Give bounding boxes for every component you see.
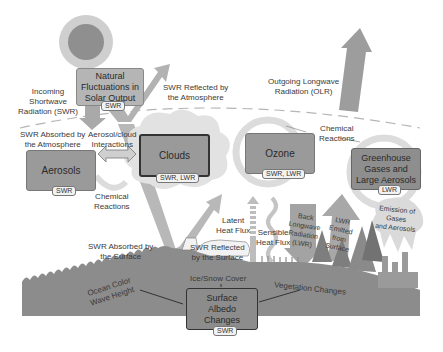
albedo-line3: Changes xyxy=(204,315,240,326)
swr-reflected-atmosphere-label: SWR Reflected by the Atmosphere xyxy=(163,83,228,103)
aerosols-tag: SWR xyxy=(52,186,76,196)
swr-reflected-surface-label: SWR Reflected by the Surface xyxy=(190,243,245,263)
aerosols-box: Aerosols xyxy=(26,150,96,191)
chemical-reactions-left-label: Chemical Reactions xyxy=(94,192,130,212)
albedo-line2: Albedo xyxy=(208,304,236,315)
latent-heat-label: Latent Heat Flux xyxy=(216,216,250,236)
ozone-label: Ozone xyxy=(265,148,294,159)
ozone-box: Ozone xyxy=(245,133,315,174)
ghg-line2: Gases and xyxy=(364,164,408,175)
clouds-box: Clouds xyxy=(139,134,210,177)
ozone-tag: SWR, LWR xyxy=(262,169,305,179)
solar-output-line1: Natural xyxy=(95,71,124,82)
swr-absorbed-surface-label: SWR Absorbed by the Surface xyxy=(88,242,153,262)
aerosol-cycle-arrow-icon xyxy=(96,176,126,188)
aerosols-label: Aerosols xyxy=(42,165,81,176)
aerosol-cloud-label: Aerosol/cloud Interactions xyxy=(88,130,136,150)
swr-absorbed-atmosphere-label: SWR Absorbed by the Atmosphere xyxy=(20,130,85,150)
ghg-tag: LWR xyxy=(378,185,401,195)
albedo-line1: Surface xyxy=(206,293,237,304)
ice-snow-label: Ice/Snow Cover xyxy=(190,274,246,284)
climate-diagram: Natural Fluctuations in Solar Output SWR… xyxy=(0,0,443,352)
sun-icon xyxy=(59,15,113,69)
chemical-reactions-right-label: Chemical Reactions xyxy=(319,124,355,144)
emission-label: Emission of Gases and Aerosols xyxy=(375,203,418,234)
ghg-line1: Greenhouse xyxy=(361,153,411,164)
solar-output-line2: Fluctuations in xyxy=(81,82,139,93)
solar-output-tag: SWR xyxy=(101,101,125,111)
clouds-label: Clouds xyxy=(159,150,190,161)
back-lwr-label: Back Longwave Radiation (LWR) xyxy=(286,210,323,250)
albedo-tag: SWR xyxy=(213,326,237,336)
incoming-swr-label: Incoming Shortwave Radiation (SWR) xyxy=(18,87,78,117)
factory-icon xyxy=(378,252,418,288)
ghg-line3: Large Aerosols xyxy=(356,175,416,186)
olr-arrow-icon xyxy=(339,28,372,112)
ghg-box: Greenhouse Gases and Large Aerosols xyxy=(351,148,421,190)
grass-icon xyxy=(262,256,298,263)
olr-label: Outgoing Longwave Radiation (OLR) xyxy=(268,77,339,97)
surface-albedo-box: Surface Albedo Changes xyxy=(186,288,258,330)
clouds-tag: SWR, LWR xyxy=(156,173,199,183)
